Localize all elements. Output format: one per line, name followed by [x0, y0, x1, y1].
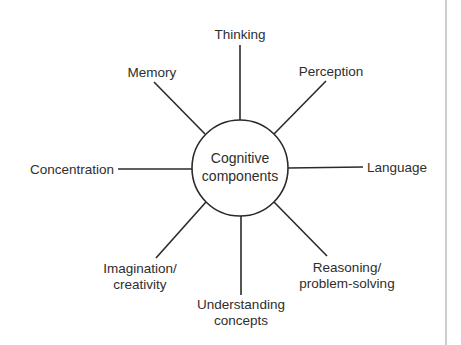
spoke-perception	[274, 81, 326, 134]
center-node-label-line1: Cognitive	[211, 150, 270, 166]
node-perception: Perception	[299, 64, 364, 79]
node-reasoning-line1: Reasoning/	[313, 260, 382, 275]
node-imagination-line2: creativity	[113, 277, 167, 292]
spoke-imagination	[156, 202, 206, 258]
spoke-memory	[154, 82, 205, 134]
node-understanding-line1: Understanding	[197, 297, 285, 312]
diagram-canvas: Cognitive components Thinking Perception…	[0, 0, 461, 345]
cognitive-components-diagram: Cognitive components Thinking Perception…	[0, 0, 461, 345]
center-node-label-line2: components	[202, 168, 278, 184]
node-thinking: Thinking	[214, 27, 265, 42]
node-imagination-line1: Imagination/	[103, 261, 177, 276]
node-concentration: Concentration	[30, 162, 114, 177]
node-understanding-line2: concepts	[214, 313, 268, 328]
node-language: Language	[367, 160, 427, 175]
node-reasoning-line2: problem-solving	[299, 276, 394, 291]
node-memory: Memory	[128, 65, 177, 80]
spoke-language	[288, 167, 363, 168]
spoke-reasoning	[274, 202, 327, 256]
